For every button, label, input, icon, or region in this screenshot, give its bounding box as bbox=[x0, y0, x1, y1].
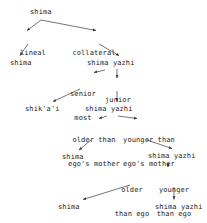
edge-shima-to-collateral bbox=[41, 20, 96, 31]
edge-label-younger-than-ego-line2: than ego bbox=[156, 210, 192, 218]
edge-label-older-than-egos-mother-line1: older than bbox=[68, 136, 120, 144]
edge-label-older-than-egos-mother: older than ego's mother bbox=[68, 120, 120, 184]
edge-shima-to-lineal bbox=[27, 20, 41, 31]
edge-label-younger-than-egos-mother-line1: younger than bbox=[122, 136, 176, 144]
edge-label-collateral-line1: collateral bbox=[72, 49, 116, 57]
edge-label-younger-than-egos-mother-line2: ego's mother bbox=[122, 160, 176, 168]
edge-label-younger-than-ego: younger than ego bbox=[156, 170, 192, 223]
edge-label-senior-most-line1: senior bbox=[68, 90, 98, 98]
edge-label-lineal: lineal bbox=[18, 33, 48, 73]
edge-label-collateral: collateral bbox=[72, 33, 116, 73]
edge-label-older-than-ego-line1: older bbox=[114, 186, 150, 194]
node-shikaai: shik'a'i bbox=[25, 105, 60, 113]
edge-label-older-than-ego-line2: than ego bbox=[114, 210, 150, 218]
edge-label-junior: junior bbox=[104, 80, 132, 120]
node-shima-root: shima bbox=[30, 8, 52, 16]
kinship-tree-diagram: shima shima shima yazhi shik'a'i shima y… bbox=[0, 0, 207, 223]
edge-label-lineal-line1: lineal bbox=[18, 49, 48, 57]
edge-label-junior-line1: junior bbox=[104, 96, 132, 104]
edge-label-younger-than-ego-line1: younger bbox=[156, 186, 192, 194]
node-shima-older-ego: shima bbox=[58, 203, 80, 211]
edge-label-older-than-ego: older than ego bbox=[114, 170, 150, 223]
edge-label-older-than-egos-mother-line2: ego's mother bbox=[68, 160, 120, 168]
